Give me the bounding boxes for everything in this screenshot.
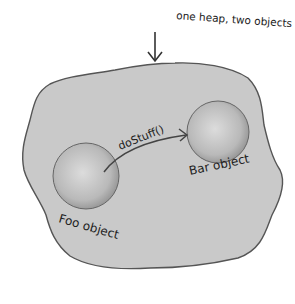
annotation-arrow	[148, 32, 162, 61]
heap-diagram: one heap, two objects doStuff() Foo obje…	[0, 0, 295, 304]
annotation-text: one heap, two objects	[176, 9, 293, 29]
foo-object-sphere	[53, 143, 119, 209]
